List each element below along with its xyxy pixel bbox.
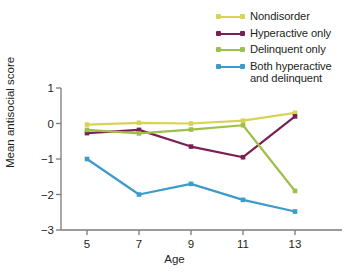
legend: NondisorderHyperactive onlyDelinquent on… [216, 10, 349, 87]
legend-item-label: Delinquent only [250, 43, 326, 56]
x-axis-tick-label: 9 [188, 238, 194, 250]
legend-item-label: Nondisorder [250, 10, 310, 23]
series-marker [85, 157, 90, 162]
legend-color-swatch-icon [216, 28, 245, 41]
data-series [85, 111, 298, 127]
series-marker [189, 127, 194, 132]
series-marker [189, 144, 194, 149]
series-marker [85, 122, 90, 127]
y-axis-tick-label: −3 [26, 224, 54, 236]
series-marker [241, 123, 246, 128]
legend-color-swatch-icon [216, 11, 245, 24]
data-series-group [85, 111, 298, 214]
x-axis-tick-label: 7 [136, 238, 142, 250]
series-marker [137, 192, 142, 197]
series-marker [189, 121, 194, 126]
series-marker [241, 155, 246, 160]
legend-item[interactable]: Hyperactive only [216, 27, 349, 41]
axes [56, 88, 342, 235]
series-marker [85, 128, 90, 133]
x-axis-tick-label: 5 [84, 238, 90, 250]
chart-figure: 10−1−2−35791113 Mean antisocial score Ag… [0, 0, 349, 280]
y-axis-tick-label: −1 [26, 153, 54, 165]
series-marker [189, 182, 194, 187]
y-axis-tick-label: −2 [26, 189, 54, 201]
legend-item[interactable]: Nondisorder [216, 10, 349, 24]
y-axis-tick-label: 1 [26, 82, 54, 94]
legend-item-label: Both hyperactive and delinquent [250, 60, 332, 85]
data-series [85, 157, 298, 214]
x-axis-tick-label: 13 [289, 238, 302, 250]
series-marker [293, 209, 298, 214]
legend-color-swatch-icon [216, 61, 245, 74]
x-axis-tick-label: 11 [237, 238, 249, 250]
legend-color-swatch-icon [216, 44, 245, 57]
series-marker [293, 189, 298, 194]
legend-item[interactable]: Delinquent only [216, 43, 349, 57]
series-marker [137, 120, 142, 125]
x-axis-label: Age [0, 253, 349, 265]
legend-item-label: Hyperactive only [250, 27, 331, 40]
y-axis-label: Mean antisocial score [4, 57, 16, 168]
legend-item[interactable]: Both hyperactive and delinquent [216, 60, 349, 85]
series-marker [137, 131, 142, 136]
series-marker [241, 118, 246, 123]
series-marker [293, 114, 298, 119]
y-axis-tick-label: 0 [26, 118, 54, 130]
series-marker [241, 198, 246, 203]
